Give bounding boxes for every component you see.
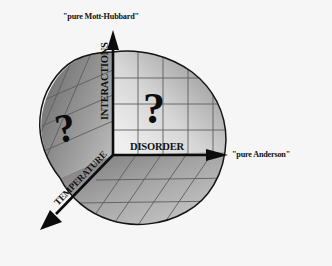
axis-label-interactions: INTERACTIONS <box>99 42 110 120</box>
endpoint-label-mott-hubbard: "pure Mott-Hubbard" <box>63 12 139 21</box>
phase-diagram-svg: INTERACTIONS TEMPERATURE DISORDER ? ? <box>0 0 332 266</box>
axis-label-disorder-text: DISORDER <box>130 141 184 152</box>
annotation-question-right: ? <box>143 84 165 133</box>
figure-canvas: INTERACTIONS TEMPERATURE DISORDER ? ? "p… <box>0 0 332 266</box>
endpoint-label-anderson: "pure Anderson" <box>232 150 290 159</box>
axis-label-disorder: DISORDER <box>130 141 184 152</box>
question-mark-right-glyph: ? <box>143 84 165 133</box>
axis-label-interactions-text: INTERACTIONS <box>99 42 110 120</box>
